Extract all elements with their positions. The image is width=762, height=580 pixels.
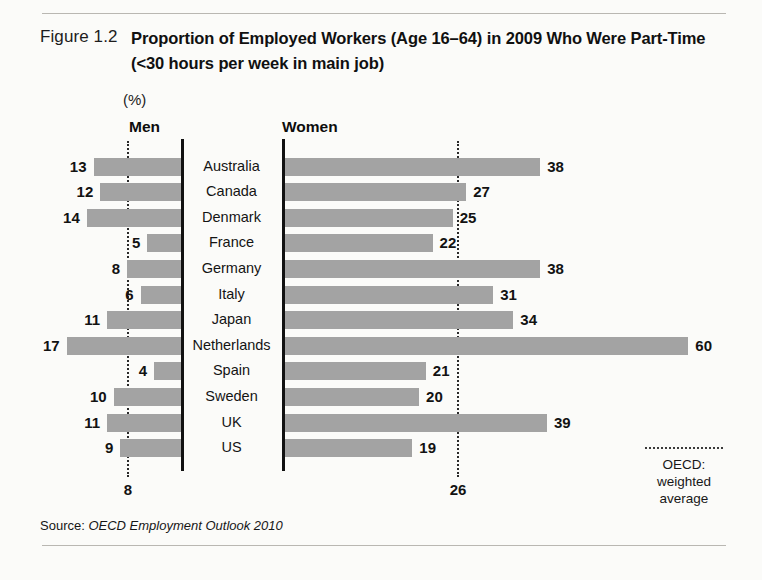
men-bar-cell: 13 <box>0 155 181 181</box>
men-bar-cell: 6 <box>0 283 181 309</box>
chart-row: 14Denmark25 <box>0 206 762 232</box>
chart-row: 13Australia38 <box>0 155 762 181</box>
chart-row: 11UK39 <box>0 411 762 437</box>
bar-value-women: 31 <box>500 285 517 304</box>
figure-panel: Figure 1.2 Proportion of Employed Worker… <box>0 0 762 580</box>
bar-men <box>100 183 181 201</box>
bar-men <box>107 311 181 329</box>
bar-value-women: 38 <box>547 157 564 176</box>
bar-value-women: 27 <box>473 182 490 201</box>
bar-value-women: 20 <box>426 387 443 406</box>
bar-women <box>285 388 420 406</box>
bar-men <box>114 388 181 406</box>
country-label: Germany <box>181 259 282 278</box>
average-tick-women: 26 <box>438 481 478 498</box>
country-label: US <box>181 438 282 457</box>
bar-women <box>285 260 541 278</box>
bar-men <box>141 286 181 304</box>
chart-row: 12Canada27 <box>0 180 762 206</box>
men-bar-cell: 8 <box>0 257 181 283</box>
chart-row: 17Netherlands60 <box>0 334 762 360</box>
women-bar-cell: 38 <box>285 257 762 283</box>
bar-women <box>285 311 514 329</box>
bar-women <box>285 286 494 304</box>
women-bar-cell: 31 <box>285 283 762 309</box>
legend-label-line-2: weighted <box>636 473 732 490</box>
bar-women <box>285 183 467 201</box>
bar-value-women: 22 <box>440 233 457 252</box>
men-bar-cell: 17 <box>0 334 181 360</box>
legend-label-line-1: OECD: <box>636 456 732 473</box>
bar-value-men: 11 <box>84 413 100 432</box>
bar-value-men: 6 <box>125 285 133 304</box>
women-bar-cell: 20 <box>285 385 762 411</box>
chart-row: 5France22 <box>0 231 762 257</box>
country-label: UK <box>181 413 282 432</box>
bar-value-men: 17 <box>43 336 60 355</box>
men-bar-cell: 5 <box>0 231 181 257</box>
women-bar-cell: 27 <box>285 180 762 206</box>
bar-women <box>285 158 541 176</box>
women-bar-cell: 60 <box>285 334 762 360</box>
chart-row: 6Italy31 <box>0 283 762 309</box>
bar-men <box>107 414 181 432</box>
women-bar-cell: 21 <box>285 359 762 385</box>
bar-value-women: 60 <box>695 336 712 355</box>
bar-value-men: 5 <box>132 233 140 252</box>
country-label: France <box>181 233 282 252</box>
bar-men <box>67 337 181 355</box>
bar-value-men: 14 <box>63 208 80 227</box>
country-label: Spain <box>181 361 282 380</box>
bar-value-women: 34 <box>520 310 537 329</box>
legend-label: OECD: weighted average <box>636 456 732 507</box>
men-bar-cell: 10 <box>0 385 181 411</box>
bar-value-women: 21 <box>433 361 450 380</box>
source-prefix: Source: <box>40 518 88 533</box>
bar-value-women: 19 <box>419 438 436 457</box>
bar-value-men: 10 <box>90 387 107 406</box>
bar-women <box>285 362 426 380</box>
men-bar-cell: 11 <box>0 411 181 437</box>
chart-row: 10Sweden20 <box>0 385 762 411</box>
country-label: Japan <box>181 310 282 329</box>
country-label: Netherlands <box>181 336 282 355</box>
bar-value-men: 8 <box>112 259 120 278</box>
bar-men <box>87 209 181 227</box>
legend-dotted-line-icon <box>645 447 723 449</box>
legend-label-line-3: average <box>636 490 732 507</box>
men-bar-cell: 11 <box>0 308 181 334</box>
average-tick-men: 8 <box>108 481 148 498</box>
source-note: Source: OECD Employment Outlook 2010 <box>40 518 283 533</box>
country-label: Australia <box>181 157 282 176</box>
bar-value-men: 13 <box>70 157 87 176</box>
men-bar-cell: 14 <box>0 206 181 232</box>
bar-men <box>127 260 181 278</box>
country-label: Canada <box>181 182 282 201</box>
country-label: Italy <box>181 285 282 304</box>
bar-women <box>285 209 453 227</box>
chart-row: 11Japan34 <box>0 308 762 334</box>
women-bar-cell: 34 <box>285 308 762 334</box>
women-bar-cell: 22 <box>285 231 762 257</box>
women-bar-cell: 39 <box>285 411 762 437</box>
bar-men <box>147 234 181 252</box>
men-bar-cell: 9 <box>0 436 181 462</box>
bar-value-women: 39 <box>554 413 571 432</box>
bar-value-women: 25 <box>460 208 477 227</box>
chart-row: 8Germany38 <box>0 257 762 283</box>
bar-value-men: 11 <box>84 310 100 329</box>
men-bar-cell: 4 <box>0 359 181 385</box>
bar-value-men: 4 <box>139 361 147 380</box>
bar-men <box>94 158 181 176</box>
legend: OECD: weighted average <box>636 447 732 507</box>
bar-women <box>285 439 413 457</box>
women-bar-cell: 38 <box>285 155 762 181</box>
bar-value-men: 12 <box>77 182 94 201</box>
source-citation: OECD Employment Outlook 2010 <box>88 518 282 533</box>
bar-value-women: 38 <box>547 259 564 278</box>
bar-women <box>285 234 433 252</box>
bar-women <box>285 414 547 432</box>
country-label: Sweden <box>181 387 282 406</box>
bar-value-men: 9 <box>105 438 113 457</box>
country-label: Denmark <box>181 208 282 227</box>
